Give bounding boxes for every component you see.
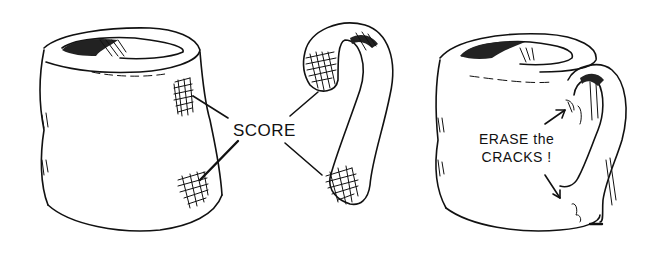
erase-cracks-label: ERASE the CRACKS ! xyxy=(479,130,554,166)
arrow-upper-crack xyxy=(545,110,565,124)
pottery-illustration: SCORE ERASE the CRACKS ! xyxy=(0,0,669,256)
erase-label-line-2: CRACKS ! xyxy=(479,148,554,166)
score-patch-upper xyxy=(174,78,193,116)
handle-score-patch-upper xyxy=(306,52,336,90)
arrow-lower-crack xyxy=(545,175,560,198)
erase-label-line-1: ERASE the xyxy=(479,130,554,148)
handle-drawing xyxy=(304,23,393,204)
sketch-drawing xyxy=(0,0,669,256)
score-label: SCORE xyxy=(233,121,296,141)
mug-body-drawing xyxy=(40,28,222,231)
